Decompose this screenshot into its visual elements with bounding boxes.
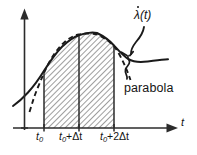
x-tick-label-t0-plus-dt: t0+Δt (59, 131, 82, 142)
parabola-label: parabola (124, 82, 173, 95)
shaded-region (42, 28, 118, 130)
x-tick-label-t0: t0 (36, 131, 43, 142)
curve-label-lambda-dot: λ(t) (134, 9, 151, 21)
tick-subscript: 0 (103, 135, 107, 144)
tick-delta-term: Δt (119, 130, 129, 142)
figure-canvas (0, 0, 197, 155)
lambda-symbol: λ (134, 8, 140, 22)
x-axis-arrowhead (167, 124, 179, 133)
x-axis-label: t (181, 117, 184, 128)
tick-operator: +2 (107, 130, 119, 142)
figure-container: λ(t) parabola t t0 t0+Δt t0+2Δt (0, 0, 197, 155)
tick-delta-term: Δt (72, 130, 82, 142)
tick-subscript: 0 (62, 135, 66, 144)
lambda-dot-accent-icon (137, 6, 139, 8)
tick-subscript: 0 (39, 135, 43, 144)
lambda-label-leader-line (131, 27, 144, 54)
y-axis-arrowhead (20, 9, 28, 20)
y-axis (20, 9, 28, 131)
lambda-glyph: λ (134, 9, 140, 21)
x-tick-label-t0-plus-2dt: t0+2Δt (100, 131, 129, 142)
lambda-args: (t) (140, 8, 151, 22)
